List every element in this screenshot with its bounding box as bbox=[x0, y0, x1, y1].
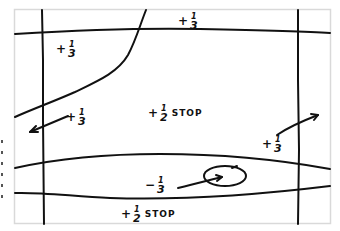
label-mid-left: +13 bbox=[66, 108, 86, 126]
fraction: 13 bbox=[68, 40, 76, 58]
label-lower: −13 bbox=[145, 176, 165, 194]
left-edge-marks bbox=[1, 140, 5, 220]
fraction: 12 bbox=[160, 104, 168, 122]
fraction: 13 bbox=[157, 176, 165, 194]
label-top: +13 bbox=[178, 12, 198, 30]
label-bottom: +12STOP bbox=[121, 205, 176, 223]
fraction: 13 bbox=[190, 12, 198, 30]
right-vertical-line bbox=[298, 10, 299, 224]
label-upper-left: +13 bbox=[56, 40, 76, 58]
label-right: +13 bbox=[262, 135, 282, 153]
fraction: 13 bbox=[274, 135, 282, 153]
label-center: +12STOP bbox=[148, 104, 203, 122]
fraction: 13 bbox=[78, 108, 86, 126]
fraction: 12 bbox=[133, 205, 141, 223]
